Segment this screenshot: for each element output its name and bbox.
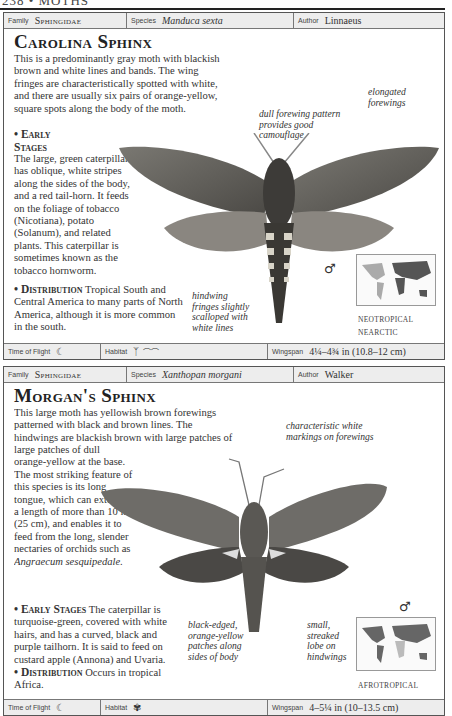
distribution-heading: • Distribution: [14, 283, 83, 295]
species-value: Manduca sexta: [162, 15, 223, 26]
wingspan-value: 4–5¼ in (10–13.5 cm): [309, 702, 398, 713]
male-symbol-icon: ♂: [399, 599, 411, 614]
morgans-sphinx-illustration: [99, 457, 389, 632]
map-region-labels: NEOTROPICAL NEARCTIC: [358, 313, 413, 339]
crescent-moon-icon: ☾: [56, 702, 65, 713]
region-neotropical: NEOTROPICAL: [358, 313, 413, 326]
distribution-heading: • Distribution: [14, 666, 83, 678]
author-cell: Author Linnaeus: [294, 13, 444, 28]
region-afrotropical: AFROTROPICAL: [358, 679, 418, 692]
wingspan-label: Wingspan: [272, 704, 303, 711]
time-of-flight-label: Time of Flight: [8, 704, 50, 711]
annotation-orange-yellow-patches: black-edged, orange-yellow patches along…: [188, 620, 244, 662]
habitat-label: Habitat: [105, 348, 127, 355]
author-value: Walker: [325, 369, 354, 380]
intro-text: This is a predominantly gray moth with b…: [14, 53, 229, 115]
info-bar: Time of Flight ☾ Habitat ✾ Wingspan 4–5¼…: [4, 699, 444, 715]
annotation-streaked-lobe: small, streaked lobe on hindwings: [307, 620, 349, 662]
farmland-icon: ⌒⌒: [143, 346, 159, 357]
info-bar: Time of Flight ☾ Habitat ᛉ ⌒⌒ Wingspan 4…: [4, 343, 444, 359]
map-region-labels: AFROTROPICAL: [358, 679, 418, 692]
early-stages-heading: • Early Stages: [14, 603, 86, 615]
family-value: Sphingidae: [35, 15, 82, 26]
time-of-flight-label: Time of Flight: [8, 348, 50, 355]
author-label: Author: [298, 371, 319, 378]
species-card-carolina-sphinx: Family Sphingidae Species Manduca sexta …: [3, 12, 445, 360]
wingspan-cell: Wingspan 4¼–4¾ in (10.8–12 cm): [268, 344, 444, 359]
wingspan-value: 4¼–4¾ in (10.8–12 cm): [309, 346, 406, 357]
annotation-hindwing-fringes: hindwing fringes slightly scalloped with…: [192, 291, 252, 333]
author-value: Linnaeus: [325, 15, 362, 26]
world-distribution-map: [356, 617, 436, 671]
family-cell: Family Sphingidae: [4, 13, 127, 28]
taxonomy-bar: Family Sphingidae Species Xanthopan morg…: [4, 367, 444, 383]
family-cell: Family Sphingidae: [4, 367, 127, 382]
taxonomy-bar: Family Sphingidae Species Manduca sexta …: [4, 13, 444, 29]
species-label: Species: [131, 371, 156, 378]
species-cell: Species Manduca sexta: [127, 13, 294, 28]
family-label: Family: [8, 17, 29, 24]
annotation-camouflage: dull forewing pattern provides good camo…: [259, 109, 349, 141]
region-nearctic: NEARCTIC: [358, 326, 413, 339]
author-cell: Author Walker: [294, 367, 444, 382]
species-title: Morgan's Sphinx: [14, 385, 156, 407]
annotation-white-markings: characteristic white markings on forewin…: [286, 421, 386, 442]
crescent-moon-icon: ☾: [56, 346, 65, 357]
early-stages-heading: • Early Stages: [14, 128, 51, 153]
world-distribution-map: [356, 254, 436, 306]
species-label: Species: [131, 17, 156, 24]
habitat-label: Habitat: [105, 704, 127, 711]
species-value: Xanthopan morgani: [162, 369, 242, 380]
habitat-cell: Habitat ᛉ ⌒⌒: [101, 344, 268, 359]
author-label: Author: [298, 17, 319, 24]
early-stages-block: • Early Stages: [14, 128, 86, 155]
species-title: Carolina Sphinx: [14, 31, 152, 53]
annotation-elongated-forewings: elongated forewings: [368, 87, 438, 108]
header-rule: [0, 8, 445, 10]
family-value: Sphingidae: [35, 369, 82, 380]
time-of-flight-cell: Time of Flight ☾: [4, 344, 101, 359]
male-symbol-icon: ♂: [324, 261, 336, 276]
family-label: Family: [8, 371, 29, 378]
time-of-flight-cell: Time of Flight ☾: [4, 700, 101, 715]
intro-text-top: This large moth has yellowish brown fore…: [14, 407, 239, 445]
wingspan-cell: Wingspan 4–5¼ in (10–13.5 cm): [268, 700, 444, 715]
habitat-cell: Habitat ✾: [101, 700, 268, 715]
species-card-morgans-sphinx: Family Sphingidae Species Xanthopan morg…: [3, 366, 445, 716]
species-cell: Species Xanthopan morgani: [127, 367, 294, 382]
palm-tree-icon: ✾: [133, 702, 141, 713]
grass-plant-icon: ᛉ: [133, 346, 139, 357]
wingspan-label: Wingspan: [272, 348, 303, 355]
